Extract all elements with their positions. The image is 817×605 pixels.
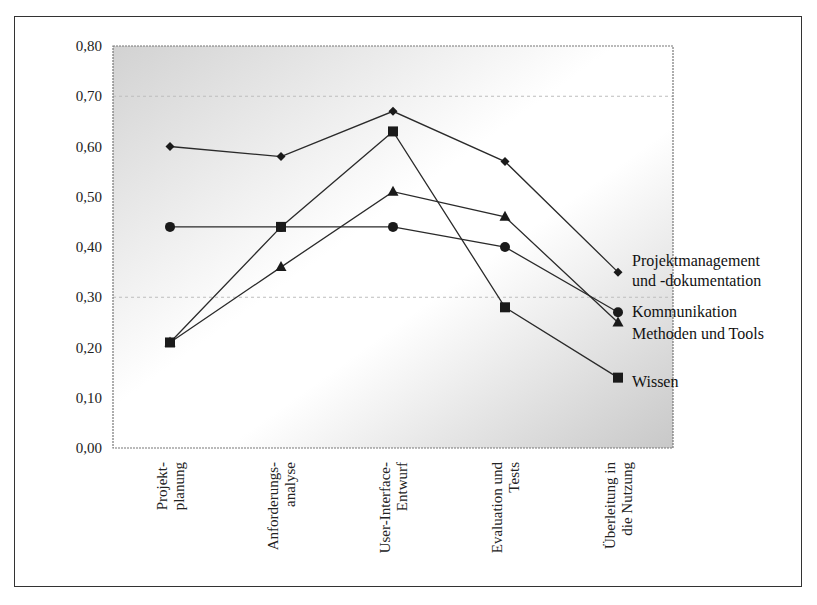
x-tick-line: planung (171, 462, 187, 511)
circle-marker (500, 242, 510, 252)
plot-background (113, 46, 673, 448)
square-marker (500, 302, 510, 312)
line-chart: 0,000,100,200,300,400,500,600,700,80 Pro… (0, 0, 817, 605)
circle-marker (388, 222, 398, 232)
circle-marker (613, 307, 623, 317)
circle-marker (165, 222, 175, 232)
square-marker (613, 373, 623, 383)
x-tick-line: analyse (282, 462, 298, 507)
x-tick-line: Tests (506, 462, 522, 493)
x-tick-line: Anforderungs- (265, 462, 281, 550)
square-marker (276, 222, 286, 232)
square-marker (388, 126, 398, 136)
x-tick-line: User-Interface- (377, 462, 393, 553)
y-tick-label: 0,10 (76, 390, 102, 406)
x-tick-line: Projekt- (154, 462, 170, 510)
y-tick-label: 0,80 (76, 38, 102, 54)
legend-label: und -dokumentation (632, 272, 761, 289)
legend-label: Projektmanagement (632, 252, 761, 270)
y-tick-label: 0,00 (76, 440, 102, 456)
y-tick-label: 0,20 (76, 340, 102, 356)
x-tick-label: Anforderungs-analyse (265, 462, 298, 551)
y-tick-label: 0,30 (76, 289, 102, 305)
x-axis: Projekt-planungAnforderungs-analyseUser-… (154, 462, 635, 554)
x-tick-label: User-Interface-Entwurf (377, 462, 410, 553)
legend-label: Methoden und Tools (632, 325, 764, 342)
legend-item: Wissen (632, 373, 678, 390)
square-marker (165, 337, 175, 347)
x-tick-line: die Nutzung (619, 462, 635, 536)
y-tick-label: 0,70 (76, 88, 102, 104)
x-tick-line: Entwurf (394, 462, 410, 511)
legend-label: Kommunikation (632, 303, 737, 320)
y-axis: 0,000,100,200,300,400,500,600,700,80 (76, 38, 102, 456)
plot-area (113, 46, 673, 448)
x-tick-label: Evaluation undTests (489, 462, 522, 554)
x-tick-line: Überleitung in (602, 462, 618, 550)
x-tick-label: Projekt-planung (154, 462, 187, 511)
legend-item: Methoden und Tools (632, 325, 764, 342)
legend-item: Kommunikation (632, 303, 737, 320)
x-tick-line: Evaluation und (489, 462, 505, 554)
y-tick-label: 0,50 (76, 189, 102, 205)
x-tick-label: Überleitung indie Nutzung (602, 462, 635, 550)
y-tick-label: 0,60 (76, 139, 102, 155)
legend-label: Wissen (632, 373, 678, 390)
y-tick-label: 0,40 (76, 239, 102, 255)
